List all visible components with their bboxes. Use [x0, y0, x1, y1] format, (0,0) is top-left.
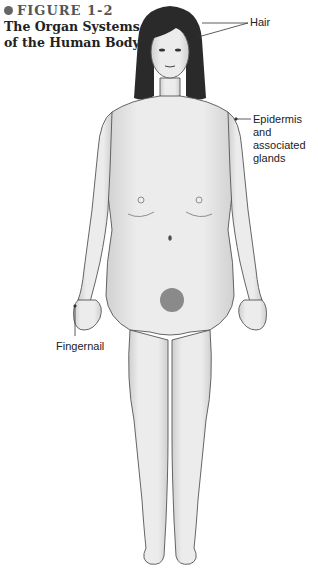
label-epidermis-line-1: Epidermis and	[253, 113, 318, 139]
human-body-illustration	[0, 0, 318, 569]
label-epidermis: Epidermis and associated glands	[253, 113, 318, 165]
pubic-region	[160, 288, 184, 312]
label-epidermis-line-2: associated	[253, 139, 318, 152]
label-fingernail: Fingernail	[56, 340, 104, 353]
label-hair: Hair	[250, 16, 270, 29]
label-epidermis-line-3: glands	[253, 152, 318, 165]
